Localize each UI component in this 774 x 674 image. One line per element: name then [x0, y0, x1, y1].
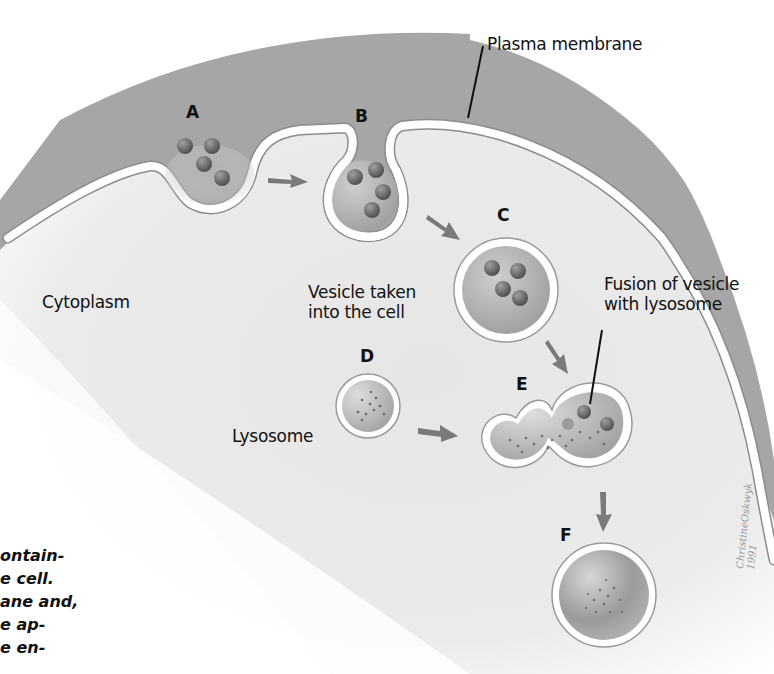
step-label-a: A	[186, 102, 199, 122]
endocytosis-diagram: Plasma membrane A B C D E F Cytoplasm Ve…	[0, 0, 774, 674]
fusion-line-2: with lysosome	[604, 294, 739, 314]
fusion-line-1: Fusion of vesicle	[604, 274, 739, 294]
caption-line-1: ontain-	[0, 544, 78, 567]
caption-line-4: e ap-	[0, 613, 78, 636]
step-f-vesicle	[552, 543, 656, 647]
diagram-artwork	[0, 0, 774, 674]
caption-line-2: e cell.	[0, 567, 78, 590]
step-c-vesicle	[454, 238, 558, 342]
fusion-label: Fusion of vesicle with lysosome	[604, 274, 739, 314]
plasma-membrane-label: Plasma membrane	[487, 34, 642, 54]
step-d-lysosome	[336, 374, 400, 438]
step-label-d: D	[360, 346, 374, 366]
step-label-e: E	[516, 374, 527, 394]
vesicle-taken-line-2: into the cell	[308, 302, 416, 322]
cytoplasm-label: Cytoplasm	[42, 292, 130, 312]
step-label-b: B	[355, 106, 368, 126]
caption-fragment: ontain- e cell. ane and, e ap- e en-	[0, 544, 78, 659]
vesicle-taken-label: Vesicle taken into the cell	[308, 282, 416, 322]
step-label-c: C	[497, 205, 509, 225]
lysosome-label: Lysosome	[232, 426, 313, 446]
caption-line-3: ane and,	[0, 590, 78, 613]
step-label-f: F	[560, 525, 571, 545]
caption-line-5: e en-	[0, 636, 78, 659]
vesicle-taken-line-1: Vesicle taken	[308, 282, 416, 302]
